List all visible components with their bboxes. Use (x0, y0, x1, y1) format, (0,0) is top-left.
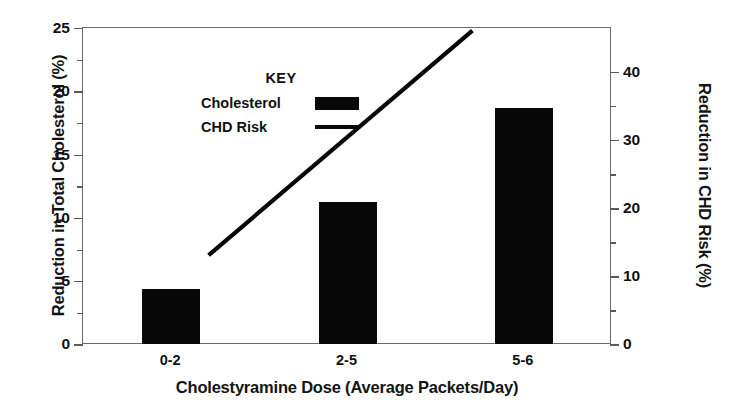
legend: KEY Cholesterol CHD Risk (201, 70, 397, 142)
y-ticklabel-left-10: 10 (53, 210, 70, 226)
x-category-label-1: 2-5 (336, 352, 357, 368)
y-ticklabel-right-10: 10 (623, 269, 640, 285)
y-ticklabel-right-30: 30 (623, 132, 640, 148)
legend-item-chd-risk: CHD Risk (201, 118, 397, 136)
y-ticklabel-right-0: 0 (623, 337, 632, 353)
y-tick-right-10 (610, 276, 619, 277)
y-axis-right-title: Reduction in CHD Risk (%) (695, 10, 714, 362)
legend-title: KEY (201, 70, 397, 86)
y-tick-left-0 (74, 344, 83, 345)
y-ticklabel-left-0: 0 (61, 337, 70, 353)
x-axis-title: Cholestyramine Dose (Average Packets/Day… (82, 378, 612, 397)
y-minortick-right-35 (610, 106, 616, 107)
y-minortick-left-17p5 (77, 123, 83, 124)
legend-label-cholesterol: Cholesterol (201, 95, 305, 111)
legend-swatch-line-icon (315, 125, 359, 129)
y-minortick-right-25 (610, 174, 616, 175)
y-ticklabel-left-25: 25 (53, 20, 70, 36)
legend-item-cholesterol: Cholesterol (201, 94, 397, 112)
y-tick-left-20 (74, 91, 83, 92)
y-minortick-left-12p5 (77, 186, 83, 187)
legend-swatch-bar-icon (315, 97, 359, 110)
y-axis-left-title: Reduction in Total Cholesterol (%) (49, 10, 68, 362)
y-minortick-left-7p5 (77, 250, 83, 251)
y-minortick-left-22p5 (77, 60, 83, 61)
x-category-label-0: 0-2 (160, 352, 181, 368)
y-tick-right-40 (610, 72, 619, 73)
y-ticklabel-left-5: 5 (61, 273, 70, 289)
x-category-label-2: 5-6 (512, 352, 533, 368)
y-tick-left-25 (74, 28, 83, 29)
y-tick-right-30 (610, 140, 619, 141)
y-minortick-left-2p5 (77, 313, 83, 314)
y-ticklabel-left-15: 15 (53, 147, 70, 163)
y-minortick-right-5 (610, 310, 616, 311)
y-tick-left-10 (74, 218, 83, 219)
y-tick-right-20 (610, 208, 619, 209)
y-ticklabel-left-20: 20 (53, 83, 70, 99)
y-tick-left-15 (74, 155, 83, 156)
bar-cholesterol-1 (319, 202, 377, 345)
bar-cholesterol-0 (142, 289, 200, 344)
y-ticklabel-right-40: 40 (623, 64, 640, 80)
y-tick-left-5 (74, 281, 83, 282)
plot-area: 0 5 10 15 20 25 0 10 20 30 40 (82, 27, 611, 344)
legend-label-chd-risk: CHD Risk (201, 119, 305, 135)
y-ticklabel-right-20: 20 (623, 200, 640, 216)
y-tick-right-0 (610, 344, 619, 345)
chart-figure: Reduction in Total Cholesterol (%) Reduc… (0, 0, 732, 414)
bar-cholesterol-2 (495, 108, 553, 344)
y-minortick-right-15 (610, 242, 616, 243)
